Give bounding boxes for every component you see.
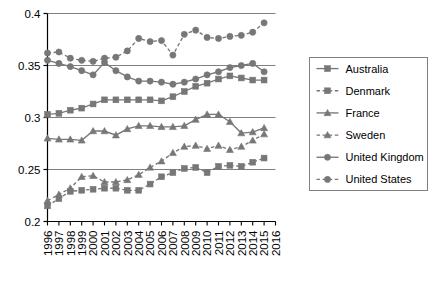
data-point-marker (158, 79, 164, 85)
y-tick-label: 0.4 (25, 8, 42, 20)
data-point-marker (90, 58, 96, 64)
legend-marker-sample (324, 154, 330, 160)
data-point-marker (215, 35, 221, 41)
data-point-marker (181, 79, 187, 85)
data-point-marker (159, 174, 165, 180)
x-tick-label: 2008 (179, 231, 191, 257)
data-point-marker (181, 166, 187, 172)
data-point-marker (250, 29, 256, 35)
x-tick-label: 2014 (247, 230, 259, 256)
legend-label: Sweden (346, 129, 386, 141)
data-point-marker (261, 77, 267, 83)
data-point-marker (215, 69, 221, 75)
data-point-marker (67, 55, 73, 61)
data-point-marker (147, 97, 153, 103)
data-point-marker (147, 181, 153, 187)
data-point-marker (102, 97, 108, 103)
data-point-marker (227, 64, 233, 70)
x-tick-label: 1998 (65, 231, 77, 257)
data-point-marker (238, 62, 244, 68)
legend-label: United States (346, 173, 413, 185)
legend-marker-sample (325, 88, 331, 94)
y-tick-label: 0.25 (18, 164, 40, 176)
data-point-marker (136, 78, 142, 84)
data-point-marker (250, 77, 256, 83)
data-point-marker (238, 163, 244, 169)
data-point-marker (216, 163, 222, 169)
data-point-marker (79, 105, 85, 111)
data-point-marker (193, 165, 199, 171)
data-point-marker (204, 72, 210, 78)
data-point-marker (204, 80, 210, 86)
x-tick-label: 2003 (122, 231, 134, 257)
x-tick-label: 2016 (270, 231, 282, 257)
legend-marker-sample (324, 176, 330, 182)
data-point-marker (238, 32, 244, 38)
data-point-marker (136, 97, 142, 103)
x-tick-label: 1999 (76, 231, 88, 257)
data-point-marker (147, 78, 153, 84)
data-point-marker (102, 185, 108, 191)
data-point-marker (193, 76, 199, 82)
data-point-marker (67, 63, 73, 69)
x-tick-labels: 1996199719981999200020012002200320042005… (42, 230, 282, 256)
data-point-marker (261, 155, 267, 161)
y-tick-label: 0.3 (25, 112, 41, 124)
data-point-marker (90, 101, 96, 107)
chart-figure: 0.20.250.30.350.4 1996199719981999200020… (0, 0, 432, 283)
data-point-marker (44, 57, 50, 63)
data-point-marker (136, 187, 142, 193)
data-point-marker (181, 89, 187, 95)
x-tick-label: 2012 (224, 231, 236, 257)
data-point-marker (238, 75, 244, 81)
data-point-marker (261, 69, 267, 75)
data-point-marker (56, 49, 62, 55)
legend-label: France (346, 107, 380, 119)
x-tick-label: 2006 (156, 231, 168, 257)
x-tick-label: 2015 (258, 231, 270, 257)
data-point-marker (56, 110, 62, 116)
y-tick-label: 0.35 (18, 60, 40, 72)
x-tick-label: 2002 (110, 231, 122, 257)
data-point-marker (204, 170, 210, 176)
data-point-marker (45, 111, 51, 117)
data-point-marker (204, 34, 210, 40)
data-point-marker (147, 38, 153, 44)
x-tick-label: 2005 (144, 231, 156, 257)
x-tick-marks (48, 222, 276, 226)
data-point-marker (56, 60, 62, 66)
data-point-marker (79, 68, 85, 74)
data-point-marker (250, 159, 256, 165)
data-point-marker (101, 55, 107, 61)
data-point-marker (79, 57, 85, 63)
x-tick-label: 2004 (133, 230, 145, 256)
data-point-marker (250, 60, 256, 66)
data-point-marker (45, 203, 51, 209)
data-point-marker (159, 98, 165, 104)
x-tick-label: 1996 (42, 231, 54, 257)
legend-box (310, 58, 428, 191)
data-point-marker (216, 76, 222, 82)
data-point-marker (170, 81, 176, 87)
data-point-marker (124, 48, 130, 54)
data-point-marker (44, 50, 50, 56)
data-point-marker (124, 97, 130, 103)
data-point-marker (193, 27, 199, 33)
data-point-marker (227, 73, 233, 79)
data-point-marker (158, 37, 164, 43)
legend-label: Australia (346, 63, 390, 75)
data-point-marker (90, 186, 96, 192)
x-tick-label: 2010 (201, 231, 213, 257)
x-tick-label: 2009 (190, 231, 202, 257)
data-point-marker (124, 74, 130, 80)
data-point-marker (227, 162, 233, 168)
data-point-marker (261, 20, 267, 26)
data-point-marker (90, 72, 96, 78)
x-tick-label: 2000 (87, 231, 99, 257)
x-tick-label: 2007 (167, 231, 179, 257)
legend-label: Denmark (346, 85, 391, 97)
data-point-marker (170, 94, 176, 100)
legend-marker-sample (325, 66, 331, 72)
x-tick-label: 1997 (53, 231, 65, 257)
chart-legend: AustraliaDenmarkFranceSwedenUnited Kingd… (310, 58, 428, 191)
